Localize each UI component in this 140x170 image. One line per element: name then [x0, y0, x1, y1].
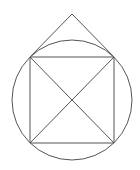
triangle-apex-lines	[30, 14, 114, 57]
geometry-diagram	[0, 0, 140, 170]
diagram-svg	[0, 0, 140, 170]
